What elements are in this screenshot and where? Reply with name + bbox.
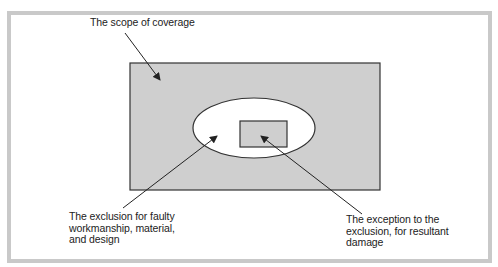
scope-label: The scope of coverage [90,17,195,29]
exception-rect [240,121,287,147]
exception-label: The exception to the exclusion, for resu… [346,214,476,249]
exclusion-label: The exclusion for faulty workmanship, ma… [69,211,189,246]
